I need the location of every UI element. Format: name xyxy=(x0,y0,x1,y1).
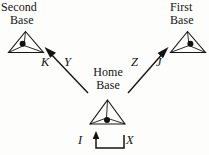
second-base-label-line1: Second xyxy=(1,0,37,14)
home-base-label-line2: Base xyxy=(96,78,120,92)
vector-label-z: Z xyxy=(131,56,138,69)
second-base-plate-icon xyxy=(9,32,44,53)
bottom-measure-bracket xyxy=(93,131,124,148)
first-base-label-line2: Base xyxy=(170,13,194,27)
bracket-label-x: X xyxy=(126,134,134,147)
baseball-base-diagram: Second Base First Base Home Base K Y Z J… xyxy=(0,0,209,155)
bracket-label-i: I xyxy=(78,134,82,147)
vector-label-y: Y xyxy=(64,56,71,69)
vector-label-k: K xyxy=(41,56,49,69)
second-base-label: Second Base xyxy=(1,1,37,27)
second-base-label-line2: Base xyxy=(1,14,34,27)
first-base-label: First Base xyxy=(170,1,194,27)
home-base-label-line1: Home xyxy=(93,65,123,79)
first-base-label-line1: First xyxy=(170,0,193,14)
vector-label-j: J xyxy=(156,56,162,69)
vector-arrow-home-to-second xyxy=(45,47,89,93)
first-base-plate-icon xyxy=(171,32,206,53)
home-base-label: Home Base xyxy=(86,66,130,92)
home-base-plate-icon xyxy=(90,100,125,124)
vector-arrow-home-to-first xyxy=(128,47,169,93)
